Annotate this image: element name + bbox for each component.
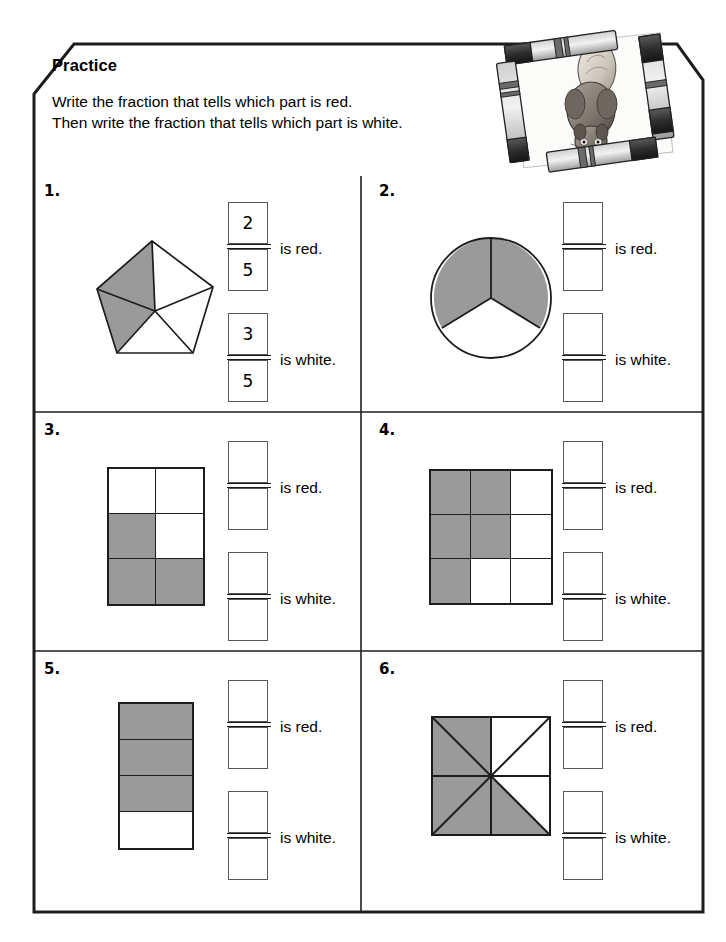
is-white-label: is white. [615,590,671,608]
white-fraction [563,552,605,641]
is-red-label: is red. [615,240,657,258]
red-fraction-row: is red. [228,680,368,780]
white-fraction [563,791,605,880]
answers-group: 2 5 is red. 3 5 is white. [228,202,368,424]
red-fraction [228,680,270,769]
problem-6: 6. [373,654,701,893]
white-numerator-box[interactable] [228,791,268,833]
red-fraction-row: 2 5 is red. [228,202,368,302]
is-white-label: is white. [615,829,671,847]
is-red-label: is red. [280,240,322,258]
figure-cell [511,471,551,515]
figure-cell [156,559,203,604]
instruction-line-2: Then write the fraction that tells which… [52,112,482,133]
is-red-label: is red. [615,718,657,736]
red-numerator-box[interactable] [563,680,603,722]
figure-cell [109,514,156,559]
figure-cell [120,704,192,740]
answers-group: is red. is white. [563,680,703,902]
problem-number: 2. [379,182,395,200]
white-fraction-row: is white. [228,791,368,891]
red-numerator-box[interactable] [228,441,268,483]
red-denominator-box[interactable] [228,488,268,530]
page-title: Practice [52,56,482,75]
worksheet-page: Practice Write the fraction that tells w… [0,0,726,942]
red-fraction [563,680,605,769]
worksheet-header: Practice Write the fraction that tells w… [52,56,482,133]
white-numerator-box[interactable] [563,313,603,355]
squirrel-crayon-illustration [487,22,702,177]
is-white-label: is white. [280,590,336,608]
red-numerator-box[interactable] [563,441,603,483]
white-numerator-box[interactable] [563,791,603,833]
figure-cell [471,559,511,603]
is-white-label: is white. [280,351,336,369]
red-denominator-box[interactable] [563,727,603,769]
red-numerator-box[interactable] [228,680,268,722]
figure-cell [511,559,551,603]
white-numerator-box[interactable]: 3 [228,313,268,355]
red-denominator-box[interactable] [563,488,603,530]
white-fraction [228,552,270,641]
red-fraction-row: is red. [563,680,703,780]
white-fraction-row: is white. [563,313,703,413]
red-fraction [563,202,605,291]
white-fraction-row: is white. [563,791,703,891]
white-denominator-box[interactable] [563,360,603,402]
white-denominator-box[interactable] [228,599,268,641]
red-denominator-box[interactable] [228,727,268,769]
white-denominator-box[interactable]: 5 [228,360,268,402]
is-red-label: is red. [280,718,322,736]
red-denominator-box[interactable] [563,249,603,291]
instruction-line-1: Write the fraction that tells which part… [52,91,482,112]
problem-2: 2. is red. [373,176,701,415]
white-denominator-box[interactable] [563,599,603,641]
red-numerator-box[interactable]: 2 [228,202,268,244]
answers-group: is red. is white. [563,441,703,663]
figure-square-3by3-grid [403,449,578,624]
figure-cell [120,812,192,848]
white-numerator-box[interactable] [563,552,603,594]
problem-1: 1. [38,176,366,415]
figure-cell [431,471,471,515]
problem-number: 1. [44,182,60,200]
figure-cell [109,559,156,604]
red-fraction [228,441,270,530]
figure-cell [120,740,192,776]
problem-3: 3. is red. is white. [38,415,366,654]
red-denominator-box[interactable]: 5 [228,249,268,291]
figure-pentagon-five-triangles [68,210,243,385]
white-denominator-box[interactable] [228,838,268,880]
problem-number: 6. [379,660,395,678]
is-red-label: is red. [280,479,322,497]
figure-cell [471,471,511,515]
figure-cell [156,469,203,514]
red-fraction [563,441,605,530]
figure-circle-thirds [403,210,578,385]
is-white-label: is white. [615,351,671,369]
red-numerator-box[interactable] [563,202,603,244]
problem-4: 4. is red. is white. [373,415,701,654]
figure-cell [431,515,471,559]
figure-cell [471,515,511,559]
white-fraction-row: 3 5 is white. [228,313,368,413]
white-fraction-row: is white. [228,552,368,652]
red-fraction: 2 5 [228,202,270,291]
white-denominator-box[interactable] [563,838,603,880]
white-fraction: 3 5 [228,313,270,402]
instructions: Write the fraction that tells which part… [52,91,482,133]
is-red-label: is red. [615,479,657,497]
white-fraction [563,313,605,402]
white-fraction-row: is white. [563,552,703,652]
red-fraction-row: is red. [228,441,368,541]
problem-5: 5. is red. is white. [38,654,366,893]
problem-number: 5. [44,660,60,678]
figure-cell [120,776,192,812]
problem-number: 4. [379,421,395,439]
figure-cell [156,514,203,559]
figure-cell [109,469,156,514]
white-numerator-box[interactable] [228,552,268,594]
red-fraction-row: is red. [563,441,703,541]
white-fraction [228,791,270,880]
red-fraction-row: is red. [563,202,703,302]
